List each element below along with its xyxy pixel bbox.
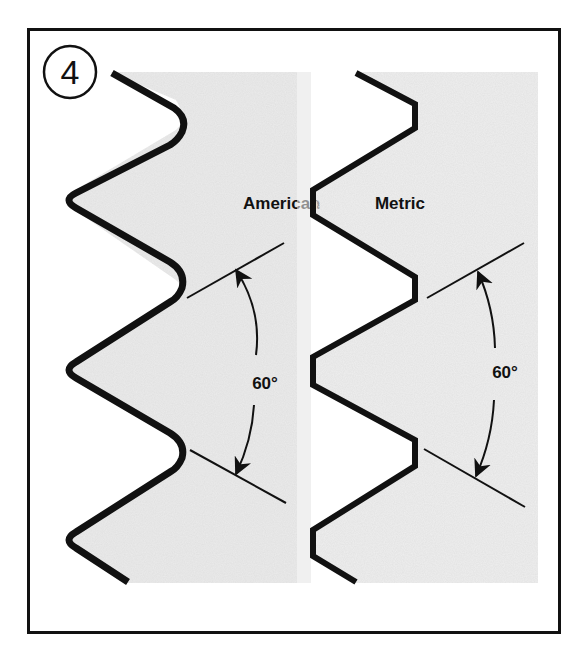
metric-edge-strip: [297, 72, 311, 583]
american-angle-label: 60°: [252, 374, 278, 393]
thread-comparison-diagram: 4 American 60° Metric 60°: [0, 0, 578, 669]
metric-panel: Metric 60°: [297, 72, 538, 583]
american-shading-base: [67, 72, 297, 583]
figure-number: 4: [61, 53, 80, 91]
metric-title: Metric: [375, 194, 425, 213]
american-panel: American 60°: [67, 72, 320, 583]
metric-angle-label: 60°: [492, 363, 518, 382]
figure-number-badge: 4: [44, 46, 96, 98]
